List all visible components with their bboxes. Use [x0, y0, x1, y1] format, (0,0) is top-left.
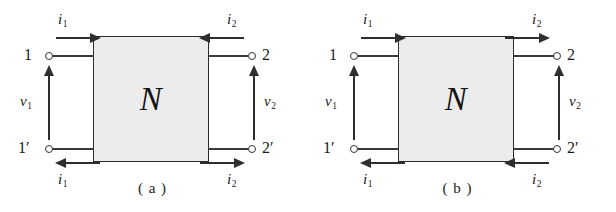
wire-bottom-right-b: [513, 148, 555, 150]
terminal-2-prime-a: [248, 145, 256, 153]
voltage-label-v2-a: v2: [264, 94, 275, 109]
voltage-label-v1-a: v1: [20, 94, 31, 109]
current-arrow-i2-top-b: [505, 33, 549, 43]
wire-top-left-b: [357, 55, 399, 57]
network-label-a: N: [94, 37, 208, 161]
terminal-label-2-prime-b: 2′: [567, 140, 579, 156]
terminal-1-prime-a: [45, 145, 53, 153]
current-label-i2-top-a: i2: [227, 12, 236, 27]
diagram-a: N 1 1′ 2 2′: [0, 0, 305, 212]
terminal-2-b: [553, 52, 561, 60]
wire-top-right-a: [208, 55, 250, 57]
wire-bottom-left-a: [52, 148, 94, 150]
terminal-2-prime-b: [553, 145, 561, 153]
network-box-b: N: [398, 36, 514, 162]
current-arrow-i2-top-a: [200, 33, 244, 43]
terminal-label-2-prime-a: 2′: [262, 140, 274, 156]
voltage-label-v2-b: v2: [569, 94, 580, 109]
caption-a: ( a ): [0, 180, 305, 197]
voltage-arrow-v2-b: [554, 66, 564, 140]
voltage-arrow-v2-a: [249, 66, 259, 140]
terminal-label-1-prime-b: 1′: [323, 140, 335, 156]
voltage-arrow-v1-b: [349, 66, 359, 140]
current-arrow-i1-bottom-a: [56, 158, 100, 168]
current-label-i2-top-b: i2: [532, 12, 541, 27]
current-label-i1-top-a: i1: [58, 12, 67, 27]
wire-bottom-left-b: [357, 148, 399, 150]
terminal-2-a: [248, 52, 256, 60]
terminal-1-a: [45, 52, 53, 60]
two-port-network-figure: N 1 1′ 2 2′: [0, 0, 616, 212]
terminal-label-2-a: 2: [262, 47, 270, 63]
wire-top-right-b: [513, 55, 555, 57]
current-label-i1-top-b: i1: [363, 12, 372, 27]
terminal-label-1-a: 1: [24, 47, 32, 63]
current-arrow-i2-bottom-b: [505, 158, 549, 168]
diagram-b: N 1 1′ 2 2′ i1: [305, 0, 610, 212]
network-box-a: N: [93, 36, 209, 162]
current-arrow-i1-bottom-b: [361, 158, 405, 168]
current-arrow-i2-bottom-a: [200, 158, 244, 168]
current-arrow-i1-top-b: [361, 33, 405, 43]
wire-bottom-right-a: [208, 148, 250, 150]
terminal-label-1-b: 1: [329, 47, 337, 63]
voltage-label-v1-b: v1: [325, 94, 336, 109]
terminal-1-prime-b: [350, 145, 358, 153]
terminal-label-2-b: 2: [567, 47, 575, 63]
voltage-arrow-v1-a: [44, 66, 54, 140]
network-label-b: N: [399, 37, 513, 161]
terminal-1-b: [350, 52, 358, 60]
caption-b: ( b ): [305, 180, 610, 197]
current-arrow-i1-top-a: [56, 33, 100, 43]
wire-top-left-a: [52, 55, 94, 57]
terminal-label-1-prime-a: 1′: [18, 140, 30, 156]
